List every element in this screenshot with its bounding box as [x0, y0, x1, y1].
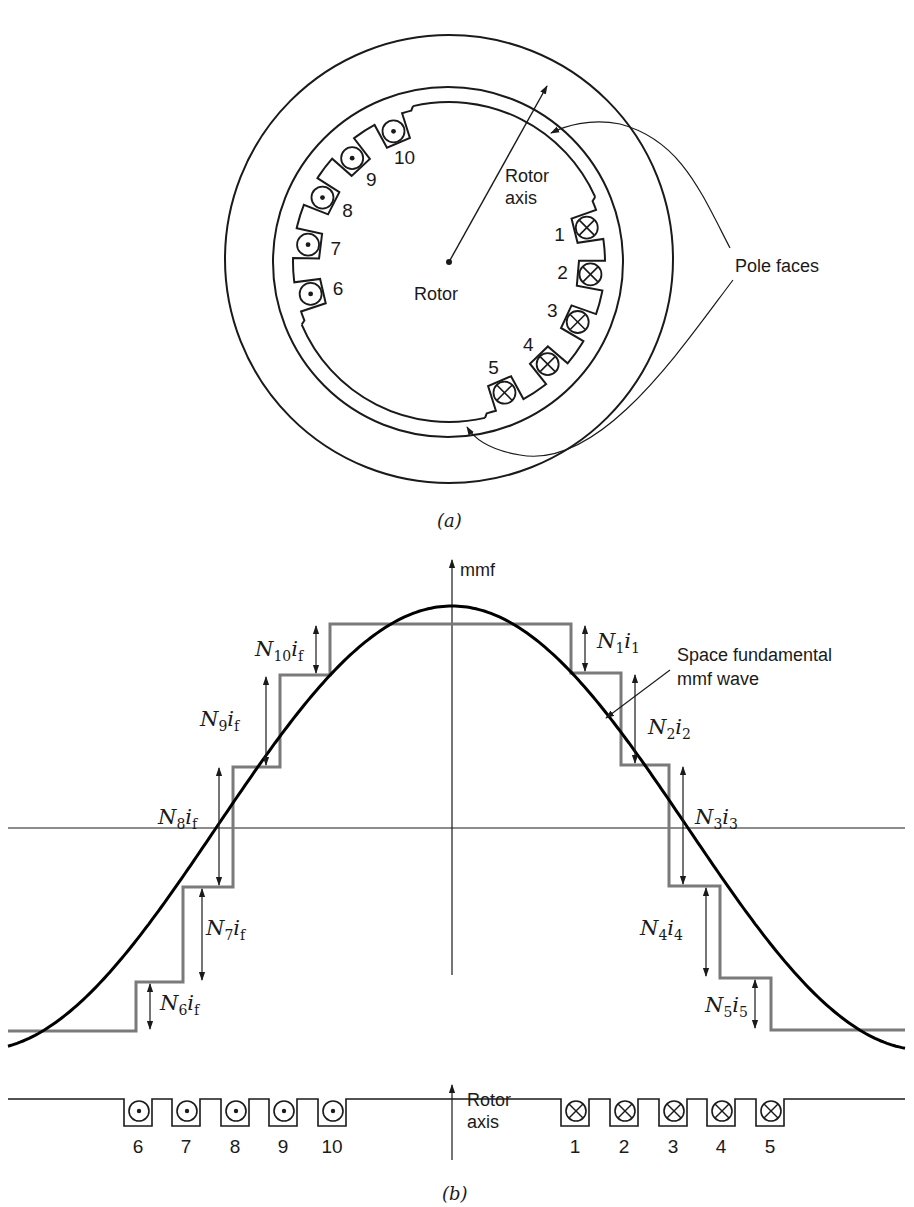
- dot-icon: [320, 195, 325, 200]
- conductor-number: 7: [181, 1136, 192, 1157]
- dot-icon: [350, 156, 355, 161]
- slot-number: 3: [547, 300, 558, 321]
- slot-number: 2: [557, 262, 568, 283]
- step-label-N3: N3i3: [694, 805, 738, 832]
- dot-icon: [391, 129, 396, 134]
- slot-conductor-10: 10: [383, 120, 416, 168]
- dot-icon: [331, 1109, 335, 1113]
- step-label-N9: N9if: [199, 707, 241, 734]
- dot-icon: [234, 1109, 238, 1113]
- rotor-axis-label-line2: axis: [505, 188, 537, 208]
- dot-icon: [185, 1109, 189, 1113]
- conductor-number: 3: [668, 1136, 679, 1157]
- step-label-N6: N6if: [159, 991, 201, 1018]
- pole-face-leader-lower: [467, 280, 733, 456]
- figure-a-machine-cross-section: 12345678910 Rotor Rotor axis Pole faces …: [225, 35, 819, 531]
- slot-conductor-3: 3: [547, 300, 589, 333]
- step-label-N8: N8if: [157, 805, 199, 832]
- rotor-label: Rotor: [414, 284, 458, 304]
- mmf-axis-label: mmf: [460, 560, 496, 580]
- slot-number: 10: [394, 147, 415, 168]
- developed-slot-conductors: 67891012345: [129, 1101, 781, 1157]
- rotor-axis-b-label-line1: Rotor: [467, 1090, 511, 1110]
- fundamental-label-line2: mmf wave: [677, 669, 759, 689]
- slot-number: 7: [331, 238, 342, 259]
- conductor-number: 4: [716, 1136, 727, 1157]
- developed-conductor-6: 6: [129, 1101, 149, 1157]
- dot-icon: [137, 1109, 141, 1113]
- slot-conductor-4: 4: [523, 334, 559, 375]
- slot-number: 8: [342, 200, 353, 221]
- developed-conductor-4: 4: [712, 1101, 732, 1157]
- developed-conductor-2: 2: [615, 1101, 635, 1157]
- mmf-diagram: 12345678910 Rotor Rotor axis Pole faces …: [0, 0, 914, 1207]
- conductor-number: 6: [133, 1136, 144, 1157]
- dot-icon: [308, 292, 313, 297]
- developed-conductor-10: 10: [321, 1101, 343, 1157]
- developed-conductor-9: 9: [274, 1101, 294, 1157]
- figure-b-caption: (b): [442, 1183, 468, 1204]
- slot-number: 9: [366, 169, 377, 190]
- dot-icon: [282, 1109, 286, 1113]
- developed-conductor-7: 7: [177, 1101, 197, 1157]
- step-label-N4: N4i4: [639, 916, 683, 943]
- fundamental-leader: [606, 670, 670, 718]
- rotor-axis-b-label-line2: axis: [467, 1112, 499, 1132]
- developed-conductor-1: 1: [566, 1101, 586, 1157]
- step-label-N2: N2i2: [647, 715, 691, 742]
- figure-b-mmf-plot: mmf Space fundamental mmf wave N10ifN9if…: [8, 560, 905, 1204]
- rotor-axis-label-line1: Rotor: [505, 166, 549, 186]
- pole-faces-label: Pole faces: [735, 256, 819, 276]
- developed-conductor-5: 5: [761, 1101, 781, 1157]
- developed-conductor-8: 8: [226, 1101, 246, 1157]
- step-label-N5: N5i5: [704, 993, 748, 1020]
- conductor-number: 8: [230, 1136, 241, 1157]
- slot-conductor-8: 8: [311, 187, 352, 222]
- figure-a-caption: (a): [437, 510, 462, 531]
- conductor-number: 5: [765, 1136, 776, 1157]
- conductor-number: 1: [570, 1136, 581, 1157]
- conductor-number: 9: [278, 1136, 289, 1157]
- step-label-N1: N1i1: [596, 629, 640, 656]
- fundamental-label-line1: Space fundamental: [677, 645, 832, 665]
- slot-number: 5: [488, 357, 499, 378]
- step-label-N7: N7if: [205, 916, 247, 943]
- developed-conductor-3: 3: [664, 1101, 684, 1157]
- dot-icon: [306, 242, 311, 247]
- slot-number: 4: [523, 334, 534, 355]
- step-label-N10: N10if: [254, 637, 305, 664]
- conductor-number: 10: [321, 1136, 342, 1157]
- conductor-number: 2: [619, 1136, 630, 1157]
- slot-number: 1: [554, 224, 565, 245]
- slot-number: 6: [333, 278, 344, 299]
